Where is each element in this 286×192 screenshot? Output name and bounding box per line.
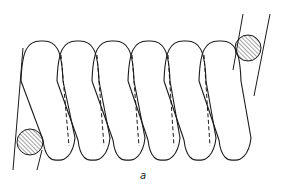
coil-front-strand bbox=[92, 81, 113, 140]
coil-top-arch bbox=[128, 41, 170, 81]
coil-bottom-loop bbox=[219, 138, 251, 160]
coil-front-strand bbox=[128, 81, 148, 140]
coil-bottom-loop bbox=[113, 138, 145, 160]
coil-front-strand bbox=[99, 81, 110, 138]
coil-bottom-loop bbox=[148, 138, 180, 160]
coil-bottom-loop bbox=[43, 138, 75, 160]
coil-top-arch bbox=[21, 41, 63, 81]
wire-cross-section-upper-right bbox=[235, 35, 261, 61]
coil-front-strand bbox=[164, 81, 184, 140]
coil-back-strand bbox=[61, 55, 69, 146]
coil-front-strand bbox=[241, 81, 251, 138]
spring-diagram bbox=[0, 0, 286, 192]
coil-back-strands-dashed bbox=[61, 55, 210, 146]
wire-cross-section-lower-left bbox=[17, 129, 43, 155]
coil-front-strand bbox=[134, 81, 145, 138]
figure-label: a bbox=[140, 170, 146, 181]
coil-front-strand bbox=[57, 81, 78, 140]
coil-bottom-loop bbox=[78, 138, 110, 160]
lead-lines bbox=[13, 14, 270, 170]
coil-front-strand bbox=[63, 81, 75, 138]
coil-front-strand bbox=[199, 81, 219, 140]
coil-bottom-loop bbox=[184, 138, 216, 160]
